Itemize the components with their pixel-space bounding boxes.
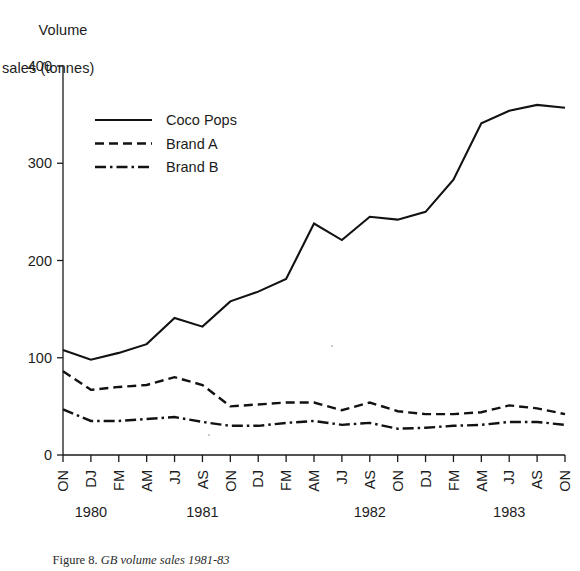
x-tick-label: ON (390, 470, 406, 492)
x-tick-label: DJ (250, 470, 266, 488)
x-tick-label: AM (474, 470, 490, 492)
x-tick-label: JJ (334, 470, 350, 485)
caption-title: GB volume sales 1981-83 (101, 553, 230, 567)
series-line (63, 409, 565, 428)
y-axis-tick-labels: 0100200300400 (28, 58, 52, 463)
y-tick-label: 200 (28, 253, 52, 269)
axes (57, 66, 565, 462)
x-tick-label: DJ (83, 470, 99, 488)
x-tick-label: FM (111, 470, 127, 491)
x-tick-label: ON (223, 470, 239, 492)
legend-label: Brand A (166, 136, 218, 152)
data-series-group (63, 105, 565, 429)
chart-legend: Coco PopsBrand ABrand B (95, 112, 237, 175)
x-axis-year-labels: 1980198119821983 (75, 504, 526, 520)
x-tick-label: JJ (501, 470, 517, 485)
caption-prefix: Figure 8. (53, 553, 101, 567)
x-year-label: 1982 (354, 504, 386, 520)
legend-label: Coco Pops (166, 112, 237, 128)
x-axis-tick-labels: ONDJFMAMJJASONDJFMAMJJASONDJFMAMJJASON (55, 470, 573, 492)
x-tick-label: AS (362, 470, 378, 489)
x-year-label: 1981 (186, 504, 218, 520)
y-tick-label: 0 (44, 447, 52, 463)
y-tick-label: 100 (28, 350, 52, 366)
x-tick-label: ON (557, 470, 573, 492)
x-axis-ticks (63, 455, 565, 462)
legend-label: Brand B (166, 159, 218, 175)
y-tick-label: 400 (28, 58, 52, 74)
x-tick-label: ON (55, 470, 71, 492)
x-tick-label: JJ (167, 470, 183, 485)
x-tick-label: FM (446, 470, 462, 491)
x-tick-label: AS (529, 470, 545, 489)
x-tick-label: AM (306, 470, 322, 492)
x-tick-label: DJ (418, 470, 434, 488)
line-chart-plot: 0100200300400 ONDJFMAMJJASONDJFMAMJJASON… (0, 0, 580, 530)
series-line (63, 371, 565, 414)
x-year-label: 1983 (493, 504, 525, 520)
scan-speck (208, 434, 210, 436)
y-tick-label: 300 (28, 155, 52, 171)
x-tick-label: AS (195, 470, 211, 489)
x-year-label: 1980 (75, 504, 107, 520)
x-tick-label: AM (139, 470, 155, 492)
scan-speck (331, 345, 333, 347)
x-tick-label: FM (278, 470, 294, 491)
y-axis-ticks (57, 66, 63, 455)
figure-caption: Figure 8. GB volume sales 1981-83 (40, 538, 230, 571)
